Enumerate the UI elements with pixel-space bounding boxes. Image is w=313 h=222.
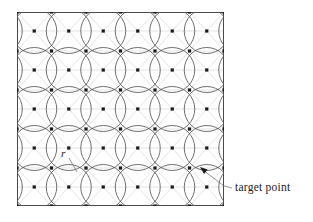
lattice-diagonal-line bbox=[207, 51, 224, 70]
lattice-point-dot bbox=[205, 29, 208, 32]
lattice-diagonal-line bbox=[241, 51, 258, 70]
lattice-diagonal-line bbox=[69, 187, 86, 206]
lattice-diagonal-line bbox=[17, 12, 34, 31]
lattice-point-dot bbox=[33, 146, 36, 149]
lattice-diagonal-line bbox=[52, 12, 69, 31]
lattice-diagonal-line bbox=[241, 31, 258, 51]
lattice-diagonal-line bbox=[34, 168, 51, 187]
lattice-diagonal-line bbox=[241, 109, 258, 129]
lattice-diagonal-line bbox=[0, 168, 17, 187]
lattice-point-dot bbox=[67, 107, 70, 110]
lattice-point-dot bbox=[102, 185, 105, 188]
lattice-point-dot bbox=[15, 166, 18, 169]
lattice-diagonal-line bbox=[34, 51, 51, 70]
lattice-point-dot bbox=[205, 68, 208, 71]
lattice-diagonal-line bbox=[0, 51, 17, 70]
lattice-diagonal-line bbox=[138, 90, 155, 109]
lattice-point-dot bbox=[136, 185, 139, 188]
lattice-point-dot bbox=[84, 49, 87, 52]
lattice-diagonal-line bbox=[86, 90, 103, 109]
lattice-point-dot bbox=[222, 49, 225, 52]
lattice-diagonal-line bbox=[190, 187, 207, 206]
lattice-point-dot bbox=[205, 146, 208, 149]
lattice-diagonal-line bbox=[52, 90, 69, 109]
lattice-diagonal-line bbox=[138, 129, 155, 148]
lattice-diagonal-line bbox=[241, 70, 258, 90]
lattice-point-dot bbox=[50, 166, 53, 169]
lattice-point-dot bbox=[15, 49, 18, 52]
lattice-diagonal-line bbox=[34, 187, 51, 206]
lattice-point-dot bbox=[153, 127, 156, 130]
lattice-point-dot bbox=[153, 88, 156, 91]
lattice-point-dot bbox=[188, 127, 191, 130]
lattice-point-dot bbox=[119, 204, 122, 207]
covering-circle bbox=[219, 9, 264, 54]
lattice-diagonal-line bbox=[121, 90, 138, 109]
lattice-diagonal-line bbox=[241, 12, 258, 31]
lattice-diagonal-line bbox=[121, 51, 138, 70]
lattice-point-dot bbox=[205, 185, 208, 188]
lattice-point-dot bbox=[136, 68, 139, 71]
lattice-diagonal-line bbox=[17, 51, 34, 70]
lattice-diagonal-line bbox=[207, 90, 224, 109]
lattice-point-dot bbox=[67, 185, 70, 188]
lattice-diagonal-line bbox=[86, 168, 103, 187]
lattice-diagonal-line bbox=[138, 168, 155, 187]
lattice-point-dot bbox=[84, 204, 87, 207]
lattice-diagonal-line bbox=[224, 70, 241, 90]
lattice-point-dot bbox=[67, 146, 70, 149]
lattice-point-dot bbox=[153, 166, 156, 169]
lattice-point-dot bbox=[119, 10, 122, 13]
lattice-point-dot bbox=[171, 29, 174, 32]
lattice-point-dot bbox=[33, 107, 36, 110]
lattice-point-dot bbox=[171, 146, 174, 149]
lattice-diagonal-line bbox=[224, 31, 241, 51]
lattice-diagonal-line bbox=[138, 187, 155, 206]
lattice-diagonal-line bbox=[103, 187, 120, 206]
covering-circle bbox=[219, 126, 264, 171]
lattice-diagonal-line bbox=[86, 187, 103, 206]
lattice-diagonal-line bbox=[190, 12, 207, 31]
lattice-point-dot bbox=[171, 185, 174, 188]
lattice-diagonal-line bbox=[224, 109, 241, 129]
lattice-diagonal-line bbox=[121, 168, 138, 187]
lattice-point-dot bbox=[153, 10, 156, 13]
lattice-diagonal-line bbox=[241, 129, 258, 148]
lattice-diagonal-line bbox=[52, 51, 69, 70]
lattice-diagonal-line bbox=[0, 148, 17, 168]
lattice-point-dot bbox=[15, 88, 18, 91]
lattice-point-dot bbox=[102, 146, 105, 149]
lattice-diagonal-line bbox=[190, 90, 207, 109]
lattice-point-dot bbox=[119, 127, 122, 130]
lattice-point-dot bbox=[50, 204, 53, 207]
lattice-diagonal-line bbox=[155, 12, 172, 31]
lattice-point-dot bbox=[222, 88, 225, 91]
lattice-diagonal-line bbox=[69, 12, 86, 31]
lattice-diagonal-line bbox=[17, 168, 34, 187]
lattice-point-dot bbox=[188, 166, 191, 169]
lattice-diagonal-line bbox=[34, 90, 51, 109]
lattice-point-dot bbox=[222, 166, 225, 169]
lattice-point-dot bbox=[188, 49, 191, 52]
radius-label: r bbox=[61, 147, 66, 159]
lattice-diagonal-line bbox=[17, 90, 34, 109]
lattice-point-dot bbox=[84, 166, 87, 169]
lattice-diagonal-line bbox=[138, 51, 155, 70]
lattice-point-dot bbox=[84, 127, 87, 130]
lattice-diagonal-line bbox=[52, 187, 69, 206]
lattice-diagonal-line bbox=[69, 168, 86, 187]
lattice-diagonal-line bbox=[86, 129, 103, 148]
lattice-diagonal-line bbox=[52, 129, 69, 148]
lattice-point-dot bbox=[15, 127, 18, 130]
lattice-point-dot bbox=[171, 68, 174, 71]
lattice-diagonal-line bbox=[190, 129, 207, 148]
lattice-point-dot bbox=[102, 29, 105, 32]
target-label-leader bbox=[224, 186, 232, 188]
lattice-point-dot bbox=[222, 10, 225, 13]
lattice-point-dot bbox=[50, 49, 53, 52]
lattice-point-dot bbox=[136, 29, 139, 32]
lattice-point-dot bbox=[84, 10, 87, 13]
lattice-point-dot bbox=[171, 107, 174, 110]
lattice-point-dot bbox=[153, 49, 156, 52]
lattice-diagonal-line bbox=[121, 187, 138, 206]
